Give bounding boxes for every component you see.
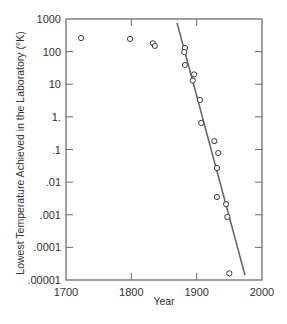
x-tick-label: 1800 (119, 286, 143, 298)
data-point-marker (182, 62, 187, 67)
y-tick-label: 1000 (37, 13, 61, 25)
y-tick-label: .0001 (33, 241, 61, 253)
data-point-marker (227, 271, 232, 276)
x-axis-title: Year (153, 295, 175, 307)
x-axis-ticks: 1700180019002000 (54, 19, 274, 298)
data-point-marker (78, 35, 83, 40)
x-tick-label: 1900 (184, 286, 208, 298)
y-tick-label: .00001 (27, 274, 61, 286)
data-points (78, 35, 232, 275)
y-tick-label: 1. (52, 111, 61, 123)
data-point-marker (152, 43, 157, 48)
data-point-marker (214, 194, 219, 199)
y-tick-label: .1 (52, 144, 61, 156)
y-axis-title: Lowest Temperature Achieved in the Labor… (14, 31, 26, 274)
data-point-marker (197, 97, 202, 102)
trend-line (177, 23, 245, 275)
plot-frame (66, 19, 262, 280)
plot-area: 1000100101..1.01.001.0001.00001 17001800… (27, 13, 274, 298)
y-tick-label: 100 (43, 46, 61, 58)
y-tick-label: .01 (46, 176, 61, 188)
trend-line-segment (177, 23, 245, 275)
y-tick-label: 10 (49, 78, 61, 90)
x-tick-label: 1700 (54, 286, 78, 298)
data-point-marker (223, 202, 228, 207)
data-point-marker (127, 36, 132, 41)
data-point-marker (190, 78, 195, 83)
temperature-vs-year-chart: 1000100101..1.01.001.0001.00001 17001800… (0, 0, 287, 324)
data-point-marker (191, 72, 196, 77)
data-point-marker (225, 214, 230, 219)
data-point-marker (216, 150, 221, 155)
x-tick-label: 2000 (250, 286, 274, 298)
y-tick-label: .001 (40, 209, 61, 221)
data-point-marker (212, 139, 217, 144)
data-point-marker (199, 120, 204, 125)
data-point-marker (214, 165, 219, 170)
data-point-marker (182, 49, 187, 54)
y-axis-ticks: 1000100101..1.01.001.0001.00001 (27, 13, 262, 286)
